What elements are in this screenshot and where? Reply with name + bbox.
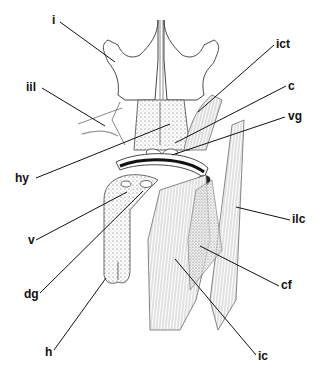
label-cf: cf bbox=[281, 279, 292, 291]
label-hy: hy bbox=[15, 172, 29, 184]
label-i: i bbox=[52, 14, 55, 26]
label-v: v bbox=[28, 234, 35, 246]
label-iil: iil bbox=[26, 81, 36, 93]
pelvic-bone bbox=[103, 20, 218, 100]
label-h: h bbox=[45, 346, 52, 358]
vent-band bbox=[116, 154, 208, 178]
label-c: c bbox=[288, 80, 295, 92]
label-ict: ict bbox=[276, 38, 290, 50]
label-ic: ic bbox=[258, 350, 268, 362]
label-dg: dg bbox=[24, 288, 39, 300]
anatomical-diagram: i iil hy v dg h ict c vg ilc cf ic bbox=[0, 0, 322, 377]
label-vg: vg bbox=[288, 110, 302, 122]
diagram-drawing bbox=[0, 0, 322, 377]
central-column bbox=[134, 100, 190, 150]
label-ilc: ilc bbox=[292, 213, 305, 225]
